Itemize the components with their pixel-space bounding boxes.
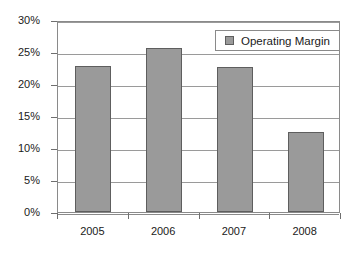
chart-legend: Operating Margin (215, 30, 340, 51)
operating-margin-bar-chart: 0%5%10%15%20%25%30% 2005200620072008 Ope… (0, 0, 360, 255)
bar-2006 (146, 48, 182, 212)
y-axis-tick-label: 10% (0, 143, 46, 154)
x-axis-tick-label-2008: 2008 (269, 225, 340, 237)
x-axis-tick-label-2007: 2007 (199, 225, 270, 237)
x-axis-tick-mark (57, 213, 58, 219)
legend-label-operating-margin: Operating Margin (241, 35, 330, 47)
x-axis-tick-label-2005: 2005 (57, 225, 128, 237)
y-axis-tick-label: 20% (0, 79, 46, 90)
legend-swatch-operating-margin (225, 36, 234, 45)
y-axis-tick-label: 25% (0, 47, 46, 58)
y-axis-tick-label: 0% (0, 207, 46, 218)
x-axis-tick-mark (128, 213, 129, 219)
y-axis-tick-label: 15% (0, 111, 46, 122)
x-axis-tick-label-2006: 2006 (128, 225, 199, 237)
y-axis-tick-label: 5% (0, 175, 46, 186)
x-axis-tick-mark (340, 213, 341, 219)
x-axis-tick-mark (199, 213, 200, 219)
bar-slot (58, 22, 129, 212)
bar-2008 (288, 132, 324, 212)
y-axis-tick-label: 30% (0, 15, 46, 26)
bar-2005 (75, 66, 111, 212)
bar-2007 (217, 67, 253, 212)
x-axis-tick-mark (269, 213, 270, 219)
bar-slot (129, 22, 200, 212)
